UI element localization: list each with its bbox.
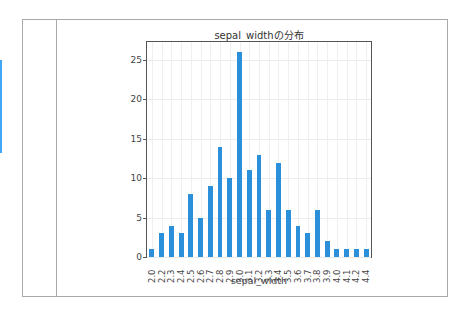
y-tick-mark — [143, 139, 146, 140]
bar-2.2 — [159, 233, 164, 257]
y-tick-label: 0 — [136, 252, 142, 262]
y-tick-label: 25 — [131, 55, 142, 65]
y-tick-mark — [143, 60, 146, 61]
bar-3.4 — [276, 163, 281, 258]
v-gridline — [366, 42, 367, 257]
cell-selection-indicator — [0, 60, 2, 153]
v-gridline — [181, 42, 182, 257]
v-gridline — [337, 42, 338, 257]
bar-2.5 — [188, 194, 193, 257]
bar-2.8 — [218, 147, 223, 257]
bar-3.3 — [266, 210, 271, 257]
bar-2.0 — [149, 249, 154, 257]
cell-prompt-area — [23, 20, 57, 296]
v-gridline — [152, 42, 153, 257]
y-tick-mark — [143, 257, 146, 258]
bar-3.5 — [286, 210, 291, 257]
y-tick-mark — [143, 178, 146, 179]
chart-title: sepal_widthの分布 — [146, 27, 372, 42]
bar-3.9 — [325, 241, 330, 257]
x-axis-label: sepal_width — [146, 275, 372, 286]
bar-2.6 — [198, 218, 203, 257]
plot-area — [146, 41, 372, 258]
y-tick-label: 10 — [131, 173, 142, 183]
bar-3.6 — [296, 226, 301, 258]
bar-3.8 — [315, 210, 320, 257]
bar-3.2 — [257, 155, 262, 257]
y-tick-label: 15 — [131, 134, 142, 144]
bar-2.4 — [179, 233, 184, 257]
y-tick-mark — [143, 99, 146, 100]
y-tick-label: 5 — [136, 213, 142, 223]
bar-3.1 — [247, 170, 252, 257]
bar-4.0 — [334, 249, 339, 257]
v-gridline — [308, 42, 309, 257]
bar-2.7 — [208, 186, 213, 257]
v-gridline — [162, 42, 163, 257]
bar-3.7 — [305, 233, 310, 257]
bar-4.1 — [344, 249, 349, 257]
h-gridline — [147, 257, 371, 258]
bar-2.9 — [227, 178, 232, 257]
v-gridline — [327, 42, 328, 257]
y-tick-label: 20 — [131, 94, 142, 104]
bar-3.0 — [237, 52, 242, 257]
v-gridline — [356, 42, 357, 257]
v-gridline — [347, 42, 348, 257]
bar-4.2 — [354, 249, 359, 257]
bar-4.4 — [364, 249, 369, 257]
y-tick-mark — [143, 218, 146, 219]
bar-2.3 — [169, 226, 174, 258]
